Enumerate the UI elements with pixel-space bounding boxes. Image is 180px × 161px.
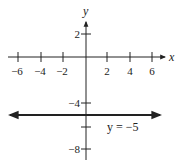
x-tick-label: −6	[11, 65, 23, 77]
coordinate-graph: x y −6 −4 −2 2 4 6 2 −4 −8 y = −5	[0, 0, 180, 161]
x-tick-label: 4	[127, 65, 133, 77]
y-tick-label: 2	[75, 28, 81, 40]
x-tick-labels: −6 −4 −2 2 4 6	[11, 65, 155, 77]
x-tick-label: −4	[34, 65, 46, 77]
x-tick-label: −2	[56, 65, 68, 77]
y-tick-labels: 2 −4 −8	[68, 28, 80, 155]
y-tick-label: −8	[68, 143, 80, 155]
y-tick-label: −4	[68, 97, 80, 109]
x-tick-label: 6	[149, 65, 155, 77]
x-axis-label: x	[168, 50, 175, 64]
line-label: y = −5	[107, 120, 139, 134]
x-tick-label: 2	[104, 65, 110, 77]
y-axis-label: y	[82, 4, 89, 18]
